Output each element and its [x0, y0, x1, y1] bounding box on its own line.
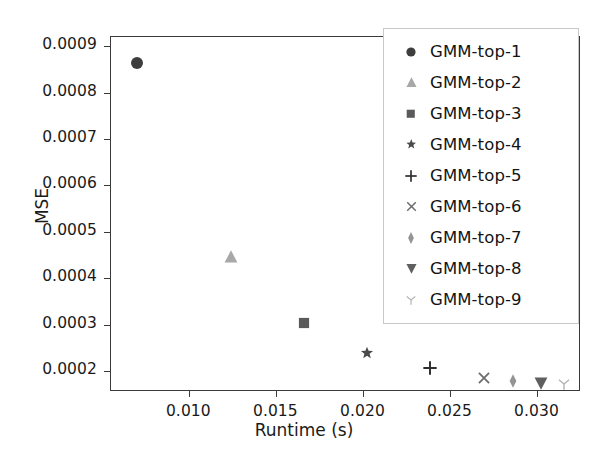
legend-marker-x-icon: [392, 201, 430, 212]
legend-label: GMM-top-6: [430, 197, 522, 216]
legend-item: GMM-top-4: [392, 129, 570, 160]
legend-marker-thin-diamond-icon: [392, 232, 430, 244]
data-point-gmm-top-3: [298, 317, 310, 329]
y-tick: [104, 278, 111, 279]
legend-label: GMM-top-2: [430, 73, 522, 92]
y-tick-label: 0.0007: [42, 128, 97, 146]
legend-marker-plus-icon: [392, 170, 430, 182]
legend-marker-triangle-up-icon: [392, 77, 430, 88]
data-point-gmm-top-6: [477, 372, 490, 385]
legend-label: GMM-top-1: [430, 42, 522, 61]
legend-label: GMM-top-9: [430, 290, 522, 309]
x-tick-label: 0.030: [514, 402, 559, 420]
x-tick-label: 0.025: [427, 402, 472, 420]
legend-item: GMM-top-6: [392, 191, 570, 222]
y-tick: [104, 139, 111, 140]
y-tick: [104, 232, 111, 233]
x-tick: [450, 390, 451, 397]
legend-marker-circle-icon: [392, 47, 430, 57]
y-tick: [104, 371, 111, 372]
x-tick: [363, 390, 364, 397]
legend-marker-star-icon: [392, 139, 430, 150]
legend-label: GMM-top-8: [430, 259, 522, 278]
legend-item: GMM-top-2: [392, 67, 570, 98]
legend-item: GMM-top-8: [392, 253, 570, 284]
y-tick: [104, 325, 111, 326]
legend-label: GMM-top-7: [430, 228, 522, 247]
x-tick: [537, 390, 538, 397]
legend-item: GMM-top-1: [392, 36, 570, 67]
y-tick-label: 0.0009: [42, 35, 97, 53]
legend-label: GMM-top-4: [430, 135, 522, 154]
data-point-gmm-top-4: [360, 346, 373, 359]
x-axis-title: Runtime (s): [0, 420, 608, 440]
data-point-gmm-top-5: [423, 361, 437, 375]
data-point-gmm-top-7: [506, 374, 520, 388]
scatter-plot-figure: 0.00020.00030.00040.00050.00060.00070.00…: [0, 0, 608, 467]
x-tick: [276, 390, 277, 397]
x-tick-label: 0.015: [253, 402, 298, 420]
legend-item: GMM-top-3: [392, 98, 570, 129]
y-tick-label: 0.0004: [42, 267, 97, 285]
y-tick: [104, 185, 111, 186]
legend-label: GMM-top-5: [430, 166, 522, 185]
legend-item: GMM-top-9: [392, 284, 570, 315]
y-tick-label: 0.0002: [42, 360, 97, 378]
legend-marker-square-icon: [392, 109, 430, 119]
y-tick: [104, 46, 111, 47]
legend-item: GMM-top-5: [392, 160, 570, 191]
y-tick: [104, 93, 111, 94]
data-point-gmm-top-2: [224, 250, 238, 264]
y-tick-label: 0.0008: [42, 82, 97, 100]
x-tick: [189, 390, 190, 397]
x-tick-label: 0.020: [340, 402, 385, 420]
y-tick-label: 0.0003: [42, 314, 97, 332]
data-point-gmm-top-9: [558, 378, 570, 390]
y-axis-title: MSE: [32, 146, 52, 266]
data-point-gmm-top-8: [534, 376, 548, 390]
legend-label: GMM-top-3: [430, 104, 522, 123]
x-tick-label: 0.010: [166, 402, 211, 420]
legend-marker-triangle-down-icon: [392, 263, 430, 274]
legend-item: GMM-top-7: [392, 222, 570, 253]
legend-marker-tri-down-icon: [392, 295, 430, 305]
data-point-gmm-top-1: [131, 56, 144, 69]
legend: GMM-top-1GMM-top-2GMM-top-3GMM-top-4GMM-…: [383, 28, 579, 324]
